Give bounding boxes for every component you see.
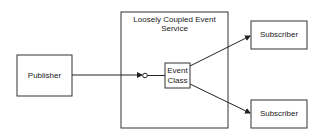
subscriber-top-label: Subscriber (251, 30, 307, 39)
event-class-label-line2: Class (165, 76, 190, 85)
service-label: Loosely Coupled Event Service (121, 15, 228, 33)
event-class-label-line1: Event (165, 66, 190, 75)
interface-lollipop-icon (143, 73, 148, 78)
subscriber-bottom-label: Subscriber (251, 109, 307, 118)
event-service-diagram: Publisher Loosely Coupled Event Service … (0, 0, 323, 133)
publisher-label: Publisher (17, 71, 72, 80)
